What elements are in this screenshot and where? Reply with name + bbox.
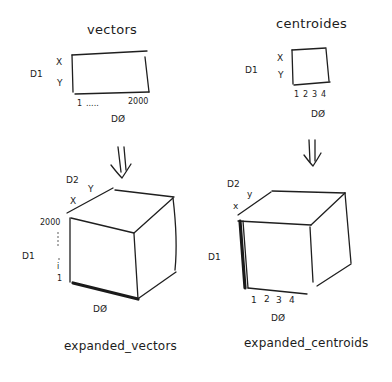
vectors-cube-d2-label: D2	[66, 176, 79, 185]
vectors-title: vectors	[87, 23, 137, 36]
vectors-cube-row-dots	[57, 232, 59, 259]
centroides-row-label-x: X	[277, 54, 283, 63]
vectors-cube-depth-y: Y	[88, 185, 94, 194]
vectors-cube-row-bottom: 1	[57, 275, 62, 283]
vectors-d1-label: D1	[30, 70, 43, 79]
vectors-cube-row-top: 2000	[40, 219, 60, 227]
vectors-cube-d1-label: D1	[22, 252, 35, 261]
vectors-col-ellipsis: .....	[86, 100, 99, 108]
centroides-col-4: 4	[321, 91, 326, 99]
expanded-centroids-caption: expanded_centroids	[244, 337, 369, 349]
centroides-col-3: 3	[312, 91, 317, 99]
right-down-arrow	[304, 140, 321, 166]
centroids-cube-col-1: 1	[251, 296, 257, 305]
left-down-arrow	[111, 147, 131, 178]
centroides-matrix-rect	[292, 48, 330, 85]
centroids-cube-d1-label: D1	[208, 253, 221, 262]
vectors-row-label-x: X	[56, 58, 62, 67]
diagram-canvas: vectors X Y D1 1 ..... 2000 DØ centroide…	[0, 0, 392, 382]
vectors-col-end: 2000	[128, 98, 148, 106]
expanded-centroids-cube	[238, 191, 351, 294]
expanded-vectors-cube	[67, 188, 176, 299]
vectors-cube-depth-x: X	[70, 197, 76, 206]
vectors-cube-d0-label: DØ	[93, 305, 107, 314]
centroides-col-1: 1	[294, 91, 299, 99]
vectors-row-label-y: Y	[57, 79, 63, 88]
centroids-cube-depth-x: x	[233, 202, 238, 211]
centroides-d1-label: D1	[245, 66, 258, 75]
vectors-d0-label: DØ	[111, 115, 125, 124]
centroides-col-2: 2	[303, 91, 308, 99]
centroids-cube-depth-y: y	[247, 190, 252, 199]
centroids-cube-col-3: 3	[276, 296, 282, 305]
vectors-matrix-rect	[72, 51, 149, 94]
centroides-d0-label: DØ	[311, 110, 325, 119]
centroides-title: centroides	[276, 17, 347, 30]
centroides-row-label-y: Y	[278, 71, 284, 80]
centroids-cube-d0-label: DØ	[271, 314, 285, 323]
centroids-cube-col-2: 2	[264, 295, 270, 304]
vectors-col-start: 1	[77, 100, 82, 108]
centroids-cube-d2-label: D2	[227, 180, 240, 189]
centroids-cube-col-4: 4	[289, 296, 295, 305]
expanded-vectors-caption: expanded_vectors	[64, 340, 177, 352]
vectors-cube-row-mid: i	[57, 263, 59, 271]
